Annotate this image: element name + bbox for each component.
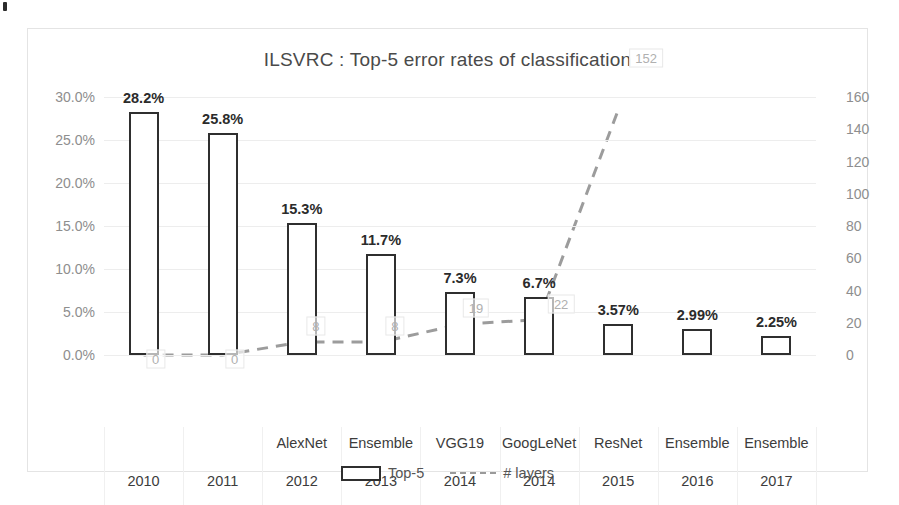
bar-value-label: 2.99% xyxy=(677,307,718,323)
legend-bar-swatch xyxy=(341,466,381,481)
gridline xyxy=(104,97,816,98)
x-axis-model-label: AlexNet xyxy=(276,435,327,451)
scan-artifact-speck xyxy=(3,2,7,11)
y2-axis-tick-label: 0 xyxy=(846,347,854,363)
x-axis-model-label: ResNet xyxy=(594,435,642,451)
x-axis-model-label: Ensemble xyxy=(665,435,729,451)
y-axis-tick-label: 25.0% xyxy=(55,132,95,148)
y2-axis-tick-label: 120 xyxy=(846,154,869,170)
y-axis-tick-label: 15.0% xyxy=(55,218,95,234)
line-value-label: 152 xyxy=(629,48,663,67)
x-axis-model-label: Ensemble xyxy=(349,435,413,451)
y-axis-tick-label: 30.0% xyxy=(55,89,95,105)
bar xyxy=(682,329,712,355)
bar-value-label: 2.25% xyxy=(756,314,797,330)
y2-axis-tick-label: 100 xyxy=(846,186,869,202)
y-axis-tick-label: 10.0% xyxy=(55,261,95,277)
y-axis-tick-label: 5.0% xyxy=(63,304,95,320)
x-axis-model-label: GoogLeNet xyxy=(502,435,576,451)
y2-axis-tick-label: 60 xyxy=(846,250,862,266)
y-axis-tick-label: 0.0% xyxy=(63,347,95,363)
legend-bar-label: Top-5 xyxy=(388,465,424,481)
bar xyxy=(129,112,159,355)
chart-frame: ILSVRC : Top-5 error rates of classifica… xyxy=(27,28,868,472)
line-value-label: 0 xyxy=(225,350,244,369)
legend-item-top5: Top-5 xyxy=(341,465,424,481)
legend-line-label: # layers xyxy=(503,465,554,481)
bar-value-label: 3.57% xyxy=(598,302,639,318)
legend-item-layers: # layers xyxy=(450,465,554,481)
y2-axis-tick-label: 40 xyxy=(846,283,862,299)
y2-axis-tick-label: 140 xyxy=(846,121,869,137)
x-axis-model-label: VGG19 xyxy=(436,435,484,451)
bar-value-label: 7.3% xyxy=(443,270,476,286)
plot-area: 0.0%5.0%10.0%15.0%20.0%25.0%30.0%0204060… xyxy=(104,97,816,355)
bar xyxy=(366,254,396,355)
bar-value-label: 11.7% xyxy=(361,232,401,248)
y2-axis-tick-label: 80 xyxy=(846,218,862,234)
bar xyxy=(603,324,633,355)
line-value-label: 19 xyxy=(463,299,489,318)
y2-axis-tick-label: 20 xyxy=(846,315,862,331)
line-value-label: 8 xyxy=(306,317,325,336)
chart-legend: Top-5 # layers xyxy=(28,465,867,481)
legend-line-swatch xyxy=(450,472,496,474)
line-value-label: 22 xyxy=(548,294,574,313)
x-axis-model-label: Ensemble xyxy=(744,435,808,451)
bar-value-label: 15.3% xyxy=(281,201,322,217)
line-value-label: 8 xyxy=(385,317,404,336)
bar xyxy=(208,133,238,355)
line-value-label: 0 xyxy=(146,350,165,369)
bar-value-label: 25.8% xyxy=(202,111,243,127)
bar xyxy=(761,336,791,355)
y-axis-tick-label: 20.0% xyxy=(55,175,95,191)
gridline xyxy=(104,355,816,356)
y2-axis-tick-label: 160 xyxy=(846,89,869,105)
bar-value-label: 6.7% xyxy=(523,275,556,291)
bar-value-label: 28.2% xyxy=(123,90,164,106)
